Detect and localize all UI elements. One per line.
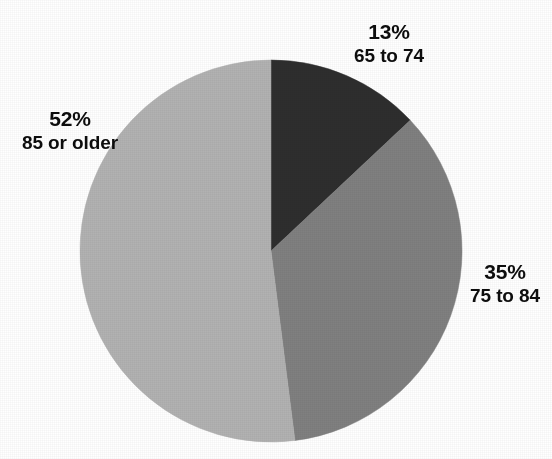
slice-label-75-to-84: 35% 75 to 84 bbox=[420, 260, 552, 307]
slice-category-85-or-older: 85 or older bbox=[0, 132, 150, 154]
pie-svg bbox=[0, 0, 552, 459]
pie-graphic bbox=[0, 0, 552, 459]
slice-category-75-to-84: 75 to 84 bbox=[420, 285, 552, 307]
slice-percent-85-or-older: 52% bbox=[0, 107, 150, 131]
slice-label-85-or-older: 52% 85 or older bbox=[0, 107, 150, 154]
slice-label-65-to-74: 13% 65 to 74 bbox=[113, 20, 552, 67]
slice-percent-65-to-74: 13% bbox=[113, 20, 552, 44]
slice-category-65-to-74: 65 to 74 bbox=[113, 45, 552, 67]
pie-chart: 13% 65 to 74 35% 75 to 84 52% 85 or olde… bbox=[0, 0, 552, 459]
slice-percent-75-to-84: 35% bbox=[420, 260, 552, 284]
